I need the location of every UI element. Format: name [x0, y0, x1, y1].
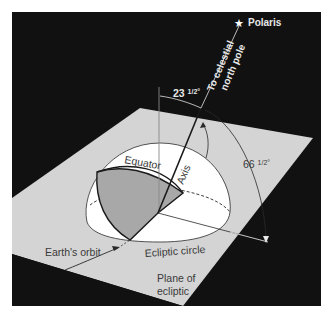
plane-label-line1: Plane of — [157, 272, 196, 284]
polaris-star-icon: ★ — [234, 17, 244, 29]
polaris-label: Polaris — [248, 17, 282, 28]
plane-label-line2: ecliptic — [157, 285, 189, 297]
earths-orbit-label: Earth's orbit — [45, 246, 101, 258]
ecliptic-diagram: ★ Polaris To celestial north pole 23 1/2… — [0, 0, 333, 320]
